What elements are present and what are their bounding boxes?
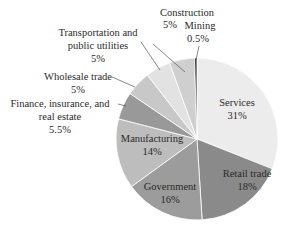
label-mining-name: Mining xyxy=(185,20,217,31)
label-transportation-line1: Transportation and xyxy=(58,27,138,38)
pie-chart: Services 31% Retail trade 18% Government… xyxy=(0,0,281,231)
label-finance-line1: Finance, insurance, and xyxy=(10,98,110,109)
label-services-name: Services xyxy=(219,97,255,108)
label-finance-pct: 5.5% xyxy=(49,124,71,135)
label-finance-line2: real estate xyxy=(39,111,82,122)
label-retail-pct: 18% xyxy=(237,181,257,192)
label-government-pct: 16% xyxy=(160,194,180,205)
label-transportation-line2: public utilities xyxy=(68,40,128,51)
label-construction-pct: 5% xyxy=(163,19,177,30)
label-services-pct: 31% xyxy=(227,110,247,121)
label-manufacturing-pct: 14% xyxy=(142,146,162,157)
label-government-name: Government xyxy=(144,181,197,192)
label-manufacturing-name: Manufacturing xyxy=(121,133,184,144)
label-retail-name: Retail trade xyxy=(223,168,272,179)
label-construction-name: Construction xyxy=(160,7,215,18)
leader-line-wholesale xyxy=(112,77,135,87)
label-mining-pct: 0.5% xyxy=(187,33,209,44)
label-transportation-pct: 5% xyxy=(91,53,105,64)
label-wholesale-name: Wholesale trade xyxy=(44,71,112,82)
leader-line-transportation xyxy=(141,42,160,70)
label-wholesale-pct: 5% xyxy=(71,84,85,95)
